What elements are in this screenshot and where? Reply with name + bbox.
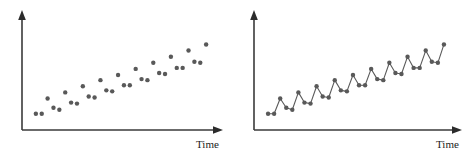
data-point-marker — [381, 78, 385, 82]
data-point-marker — [430, 60, 434, 64]
data-point-marker — [357, 83, 361, 87]
data-point-marker — [272, 112, 276, 116]
data-point-marker — [81, 84, 85, 88]
data-point-marker — [204, 42, 208, 46]
data-point-marker — [290, 108, 294, 112]
data-point-marker — [110, 89, 114, 93]
two-panel-time-series-figure: Time Time — [0, 0, 472, 156]
y-axis-arrow-icon — [18, 10, 26, 20]
scatter-point-group — [34, 42, 209, 116]
data-point-marker — [122, 83, 126, 87]
right-line-panel: Time — [236, 0, 472, 156]
data-point-marker — [339, 88, 343, 92]
data-point-marker — [169, 54, 173, 58]
x-axis-arrow-icon — [213, 126, 223, 134]
data-point-marker — [63, 90, 67, 94]
data-point-marker — [87, 94, 91, 98]
data-point-marker — [192, 60, 196, 64]
data-point-marker — [327, 95, 331, 99]
data-point-marker — [405, 54, 409, 58]
data-point-marker — [351, 73, 355, 77]
line-axes — [250, 10, 462, 134]
data-point-marker — [45, 96, 49, 100]
data-point-marker — [442, 42, 446, 46]
data-point-marker — [345, 89, 349, 93]
data-point-marker — [145, 78, 149, 82]
data-point-marker — [320, 94, 324, 98]
data-point-marker — [180, 66, 184, 70]
data-point-marker — [57, 108, 61, 112]
data-point-marker — [387, 61, 391, 65]
data-point-marker — [163, 72, 167, 76]
data-point-marker — [363, 83, 367, 87]
data-point-marker — [375, 77, 379, 81]
data-point-marker — [69, 100, 73, 104]
data-point-marker — [40, 112, 44, 116]
data-point-marker — [133, 67, 137, 71]
left-scatter-panel: Time — [0, 0, 236, 156]
data-point-marker — [411, 66, 415, 70]
data-point-marker — [308, 101, 312, 105]
data-point-marker — [34, 112, 38, 116]
series-polyline — [268, 44, 444, 113]
x-axis-caption-left: Time — [196, 138, 219, 150]
data-point-marker — [51, 105, 55, 109]
data-point-marker — [266, 112, 270, 116]
data-point-marker — [369, 67, 373, 71]
data-point-marker — [393, 71, 397, 75]
data-point-marker — [399, 72, 403, 76]
x-axis-arrow-icon — [452, 126, 462, 134]
y-axis-arrow-icon — [250, 10, 258, 20]
data-point-marker — [314, 84, 318, 88]
data-point-marker — [104, 88, 108, 92]
data-point-marker — [302, 100, 306, 104]
scatter-axes — [18, 10, 223, 134]
data-point-marker — [424, 48, 428, 52]
data-point-marker — [198, 61, 202, 65]
data-point-marker — [296, 90, 300, 94]
data-point-marker — [128, 83, 132, 87]
data-point-marker — [278, 96, 282, 100]
x-axis-caption-right: Time — [436, 138, 459, 150]
data-point-marker — [98, 78, 102, 82]
data-point-marker — [75, 101, 79, 105]
data-point-marker — [139, 77, 143, 81]
data-point-marker — [175, 66, 179, 70]
data-point-marker — [284, 105, 288, 109]
data-point-marker — [186, 48, 190, 52]
data-point-marker — [333, 78, 337, 82]
data-point-marker — [417, 66, 421, 70]
data-point-marker — [151, 61, 155, 65]
data-point-marker — [116, 73, 120, 77]
data-point-marker — [157, 71, 161, 75]
data-point-marker — [436, 61, 440, 65]
data-point-marker — [92, 95, 96, 99]
